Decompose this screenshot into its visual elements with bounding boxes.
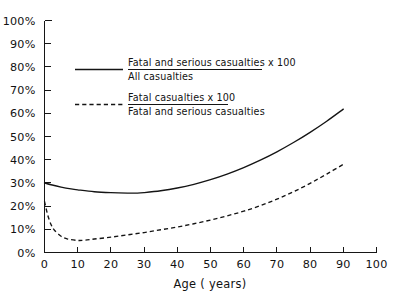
legend-entry-0: Fatal and serious casualties x 100 All c… <box>75 57 296 82</box>
x-tick-label-0: 0 <box>41 258 48 271</box>
series-line-0 <box>45 109 344 193</box>
x-axis-ticks <box>45 247 377 253</box>
line-chart-canvas: 0%10%20%30%40%50%60%70%80%90%100% 010203… <box>0 0 394 300</box>
legend-entry-0-denominator: All casualties <box>128 71 193 82</box>
y-axis-ticks <box>45 21 51 253</box>
legend-entry-0-numerator: Fatal and serious casualties x 100 <box>128 57 296 68</box>
chart-legend: Fatal and serious casualties x 100 All c… <box>75 57 296 117</box>
x-tick-label-100: 100 <box>366 258 388 271</box>
y-tick-label-10: 10% <box>10 223 36 236</box>
y-tick-label-70: 70% <box>10 84 36 97</box>
x-tick-label-40: 40 <box>170 258 185 271</box>
y-tick-label-100: 100% <box>3 15 36 28</box>
x-tick-label-90: 90 <box>336 258 351 271</box>
legend-entry-1-denominator: Fatal and serious casualties <box>128 106 265 117</box>
x-axis-tick-labels: 0102030405060708090100 <box>41 258 388 271</box>
series-line-1 <box>45 164 344 240</box>
y-axis-tick-labels: 0%10%20%30%40%50%60%70%80%90%100% <box>3 15 36 260</box>
legend-entry-1: Fatal casualties x 100 Fatal and serious… <box>75 92 265 117</box>
y-tick-label-30: 30% <box>10 177 36 190</box>
x-tick-label-50: 50 <box>203 258 218 271</box>
data-series-layer <box>45 109 344 240</box>
x-tick-label-60: 60 <box>236 258 251 271</box>
y-tick-label-20: 20% <box>10 200 36 213</box>
x-tick-label-80: 80 <box>303 258 318 271</box>
x-tick-label-10: 10 <box>70 258 85 271</box>
y-tick-label-80: 80% <box>10 61 36 74</box>
x-axis-title: Age ( years) <box>173 277 246 291</box>
x-tick-label-20: 20 <box>104 258 119 271</box>
legend-entry-1-numerator: Fatal casualties x 100 <box>128 92 235 103</box>
y-tick-label-50: 50% <box>10 131 36 144</box>
y-tick-label-40: 40% <box>10 154 36 167</box>
chart-figure: 0%10%20%30%40%50%60%70%80%90%100% 010203… <box>0 0 394 300</box>
y-tick-label-90: 90% <box>10 38 36 51</box>
y-tick-label-60: 60% <box>10 107 36 120</box>
y-tick-label-0: 0% <box>17 247 35 260</box>
x-tick-label-30: 30 <box>137 258 152 271</box>
x-tick-label-70: 70 <box>270 258 285 271</box>
